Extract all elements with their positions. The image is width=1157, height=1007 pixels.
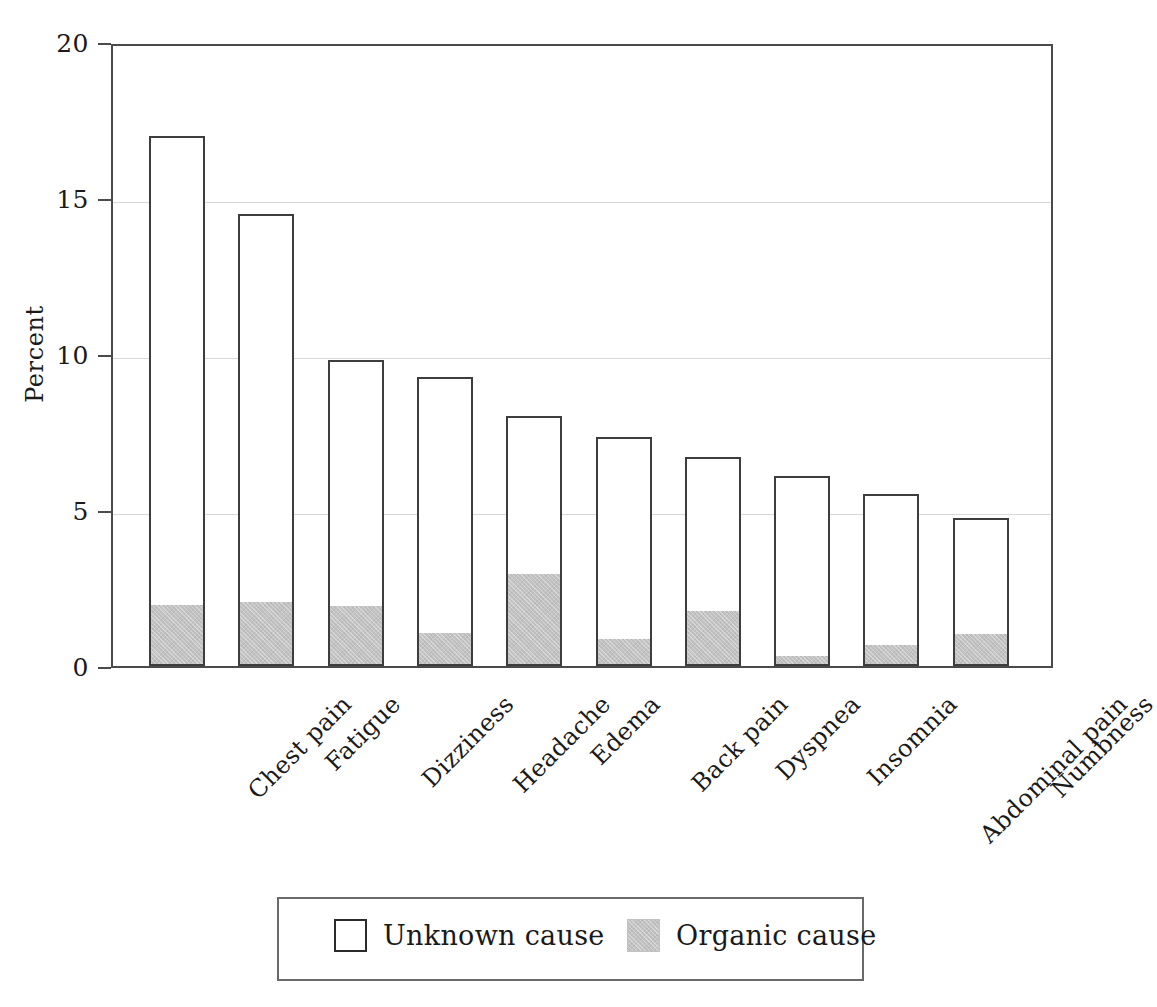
y-tick-label: 5 <box>73 499 89 524</box>
legend-label-unknown-cause: Unknown cause <box>383 920 605 951</box>
bar-dizziness <box>328 360 384 666</box>
bar-segment-organic <box>865 645 917 664</box>
y-tick-label: 0 <box>73 655 89 680</box>
y-tick-mark <box>98 199 111 201</box>
x-axis-label: Dizziness <box>416 690 519 793</box>
legend-item-organic-cause[interactable]: Organic cause <box>627 919 877 952</box>
bar-segment-organic <box>419 633 471 664</box>
bar-edema <box>506 416 562 666</box>
x-axis-label: Insomnia <box>862 690 963 791</box>
x-axis-label: Back pain <box>686 690 793 797</box>
y-tick-mark <box>98 355 111 357</box>
bar-back-pain <box>596 437 652 666</box>
y-tick-label: 20 <box>56 31 89 56</box>
bar-segment-organic <box>598 639 650 664</box>
y-tick-label: 15 <box>56 187 89 212</box>
y-tick-label: 10 <box>56 343 89 368</box>
y-tick-mark <box>98 667 111 669</box>
bar-insomnia <box>774 476 830 666</box>
legend-label-organic-cause: Organic cause <box>676 920 877 951</box>
y-axis-title: Percent <box>21 289 49 419</box>
x-axis-label: Abdominal pain <box>975 690 1134 849</box>
bar-segment-organic <box>776 656 828 664</box>
chart-legend: Unknown cause Organic cause <box>277 897 864 981</box>
bar-numbness <box>953 518 1009 666</box>
y-tick-mark <box>98 511 111 513</box>
plot-area <box>111 44 1053 668</box>
bar-abdominal-pain <box>863 494 919 666</box>
bar-fatigue <box>238 214 294 666</box>
y-tick-mark <box>98 43 111 45</box>
bar-headache <box>417 377 473 666</box>
bar-segment-organic <box>240 602 292 664</box>
gridline <box>113 202 1051 203</box>
bar-segment-organic <box>330 606 382 664</box>
bar-segment-organic <box>151 605 203 664</box>
bar-segment-organic <box>687 611 739 664</box>
organic-cause-swatch <box>627 919 660 952</box>
legend-item-unknown-cause[interactable]: Unknown cause <box>334 919 605 952</box>
bar-dyspnea <box>685 457 741 666</box>
bar-segment-organic <box>955 634 1007 664</box>
bar-segment-organic <box>508 574 560 664</box>
bar-chest-pain <box>149 136 205 666</box>
unknown-cause-swatch <box>334 919 367 952</box>
